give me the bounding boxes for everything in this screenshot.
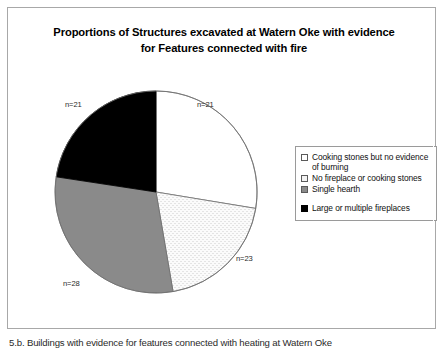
chart-frame: Proportions of Structures excavated at W…: [7, 7, 436, 329]
gray-swatch-icon: [301, 186, 308, 193]
legend-item-no-fireplace[interactable]: No fireplace or cooking stones: [301, 173, 432, 183]
light-dotted-swatch-icon: [301, 175, 308, 182]
pie-slice-no-fireplace-or-cooking-stones[interactable]: [156, 192, 256, 292]
white-outline-swatch-icon: [301, 154, 308, 161]
legend-label-large-fireplaces: Large or multiple fireplaces: [312, 203, 410, 213]
pie-data-label-large-fireplaces: n=21: [65, 100, 82, 109]
pie-data-label-no-fireplace: n=23: [236, 254, 253, 263]
chart-legend: Cooking stones but no evidence of burnin…: [295, 146, 437, 221]
chart-title: Proportions of Structures excavated at W…: [22, 24, 426, 56]
black-swatch-icon: [301, 205, 308, 212]
pie-data-label-single-hearth: n=28: [63, 279, 80, 288]
chart-title-line-2: for Features connected with fire: [22, 40, 426, 56]
pie-slice-single-hearth[interactable]: [55, 177, 173, 293]
figure-caption: 5.b. Buildings with evidence for feature…: [9, 337, 439, 349]
chart-title-line-1: Proportions of Structures excavated at W…: [22, 24, 426, 40]
legend-label-cooking-stones: Cooking stones but no evidence of burnin…: [312, 152, 432, 172]
legend-item-cooking-stones[interactable]: Cooking stones but no evidence of burnin…: [301, 152, 432, 172]
legend-item-single-hearth[interactable]: Single hearth: [301, 184, 432, 194]
legend-label-single-hearth: Single hearth: [312, 184, 360, 194]
legend-label-no-fireplace: No fireplace or cooking stones: [312, 173, 422, 183]
pie-chart: [48, 84, 264, 300]
pie-data-label-cooking-stones: n=21: [197, 100, 214, 109]
legend-item-large-fireplaces[interactable]: Large or multiple fireplaces: [301, 203, 432, 213]
pie-chart-svg: [48, 84, 264, 300]
